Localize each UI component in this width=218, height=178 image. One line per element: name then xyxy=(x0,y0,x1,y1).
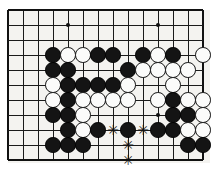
star-mark-icon: ✳ xyxy=(120,138,136,152)
hoshi-point xyxy=(156,23,160,27)
star-mark-icon: ✳ xyxy=(120,153,136,167)
mark-layer: ✳✳✳✳ xyxy=(0,0,218,178)
star-mark-icon: ✳ xyxy=(135,123,151,137)
go-board-diagram: ✳✳✳✳ xyxy=(0,0,218,178)
star-mark-icon: ✳ xyxy=(105,123,121,137)
hoshi-point xyxy=(156,113,160,117)
hoshi-point xyxy=(66,23,70,27)
